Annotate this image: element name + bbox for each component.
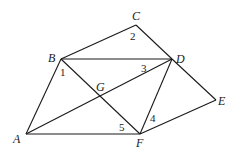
angle-label-3: 3 [141, 62, 147, 74]
segment-CD [136, 25, 172, 59]
angle-label-1: 1 [60, 66, 66, 78]
geometry-diagram: A B C D E F G 1 2 3 4 5 [0, 0, 241, 151]
point-label-B: B [48, 51, 56, 65]
point-label-C: C [132, 9, 141, 23]
segment-BF [61, 59, 140, 134]
point-label-G: G [96, 80, 105, 94]
segment-AB [26, 59, 61, 134]
angle-label-5: 5 [119, 121, 125, 133]
point-label-E: E [217, 94, 226, 108]
point-label-D: D [175, 52, 185, 66]
angle-label-4: 4 [150, 112, 156, 124]
point-label-F: F [135, 136, 144, 150]
angle-label-2: 2 [130, 30, 136, 42]
segment-BC [61, 25, 136, 59]
point-label-A: A [12, 132, 21, 146]
